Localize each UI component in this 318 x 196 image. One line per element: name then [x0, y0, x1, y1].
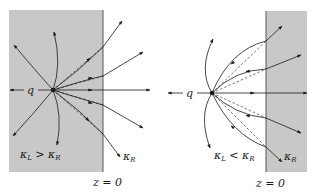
region-kappa-label: κR — [122, 150, 136, 164]
interface-label: z = 0 — [255, 177, 285, 190]
dielectric-interface-figure: q κL > κR κR z = 0 q κL — [0, 0, 318, 196]
condition-label: κL > κR — [19, 148, 61, 162]
interface-label: z = 0 — [92, 176, 122, 189]
charge-label: q — [186, 87, 193, 100]
point-charge — [210, 91, 214, 95]
field-line — [204, 93, 212, 148]
field-line — [205, 39, 213, 93]
condition-label: κL < κR — [213, 149, 255, 163]
right-panel: q κL < κR κR z = 0 — [168, 11, 307, 190]
left-panel: q κL > κR κR z = 0 — [9, 10, 150, 189]
point-charge — [51, 88, 55, 92]
charge-label: q — [27, 84, 34, 97]
